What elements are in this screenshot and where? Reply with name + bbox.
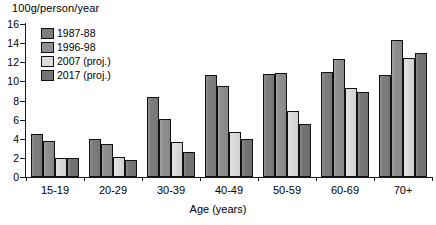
bar [31, 134, 43, 177]
y-tick-label: 8 [0, 96, 19, 106]
bar [287, 111, 299, 177]
y-tick-label: 0 [0, 172, 19, 182]
bar [67, 158, 79, 177]
legend-item-label: 2017 (proj.) [57, 70, 111, 81]
y-tick-label: 4 [0, 134, 19, 144]
y-tick-label-text: 2 [1, 153, 19, 163]
x-tick-label: 50-59 [257, 184, 317, 196]
legend-swatch-icon [41, 42, 54, 53]
x-tick [84, 177, 85, 181]
bar [229, 132, 241, 177]
chart-legend: 1987-881996-982007 (proj.)2017 (proj.) [41, 27, 111, 83]
bar [321, 72, 333, 177]
bar [391, 40, 403, 177]
bar-group [258, 24, 316, 177]
y-tick-label-text: 4 [1, 134, 19, 144]
x-tick-label: 15-19 [25, 184, 85, 196]
bar [333, 59, 345, 177]
bar [171, 142, 183, 177]
bar-group [200, 24, 258, 177]
bar [55, 158, 67, 177]
legend-item-label: 1987-88 [57, 28, 96, 39]
legend-swatch-icon [41, 56, 54, 67]
bar [217, 86, 229, 177]
x-tick [316, 177, 317, 181]
legend-item-label: 1996-98 [57, 42, 96, 53]
x-tick [142, 177, 143, 181]
legend-item: 2007 (proj.) [41, 55, 111, 68]
x-tick [26, 177, 27, 181]
bar [415, 53, 427, 177]
x-tick-label: 70+ [373, 184, 433, 196]
y-axis-unit-label: 100g/person/year [12, 2, 99, 14]
bar-group [142, 24, 200, 177]
y-tick-label-text: 16 [1, 19, 19, 29]
y-tick-label-text: 14 [1, 38, 19, 48]
y-tick-label-text: 10 [1, 76, 19, 86]
x-tick [200, 177, 201, 181]
bar [357, 92, 369, 177]
y-tick-label: 2 [0, 153, 19, 163]
x-tick [374, 177, 375, 181]
bar [125, 160, 137, 177]
x-axis-line [21, 177, 432, 178]
y-tick-label: 12 [0, 57, 19, 67]
x-tick [258, 177, 259, 181]
y-tick-label: 6 [0, 115, 19, 125]
bar-chart: 100g/person/year 0246810121416 15-1920-2… [0, 0, 436, 225]
bar [183, 152, 195, 177]
x-tick-label: 20-29 [83, 184, 143, 196]
legend-item: 2017 (proj.) [41, 69, 111, 82]
bar [379, 75, 391, 177]
bar [101, 144, 113, 177]
y-tick-label-text: 6 [1, 115, 19, 125]
legend-item: 1996-98 [41, 41, 111, 54]
bar [159, 119, 171, 177]
bar [147, 97, 159, 177]
bar [299, 124, 311, 177]
x-tick [432, 177, 433, 181]
bar [89, 139, 101, 177]
bar [205, 75, 217, 177]
y-tick-label: 16 [0, 19, 19, 29]
bar [345, 88, 357, 177]
y-tick-label-text: 12 [1, 57, 19, 67]
x-tick-label: 30-39 [141, 184, 201, 196]
y-tick-label: 10 [0, 76, 19, 86]
bar-group [316, 24, 374, 177]
x-tick-label: 40-49 [199, 184, 259, 196]
y-tick-label-text: 0 [1, 172, 19, 182]
x-axis-title: Age (years) [0, 203, 436, 215]
bar [113, 157, 125, 177]
bar [263, 74, 275, 177]
bar [403, 58, 415, 177]
legend-item: 1987-88 [41, 27, 111, 40]
y-tick-label: 14 [0, 38, 19, 48]
x-tick-label: 60-69 [315, 184, 375, 196]
bar [43, 141, 55, 177]
legend-item-label: 2007 (proj.) [57, 56, 111, 67]
bar [241, 139, 253, 177]
legend-swatch-icon [41, 28, 54, 39]
y-tick-label-text: 8 [1, 96, 19, 106]
bar-group [374, 24, 432, 177]
bar [275, 73, 287, 177]
legend-swatch-icon [41, 70, 54, 81]
